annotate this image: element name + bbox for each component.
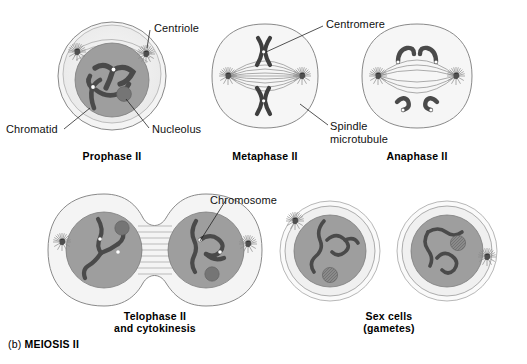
panel-sex-cells xyxy=(280,201,497,301)
nucleus xyxy=(411,215,483,287)
label-spindle-line-1: Spindle xyxy=(330,120,367,132)
panel-prophase-2 xyxy=(58,22,166,130)
meiosis-ii-figure: Centriole Centromere Chromatid Nucleolus… xyxy=(0,0,527,364)
centromere-dot xyxy=(262,99,265,102)
caption-sex-cells-line-2: (gametes) xyxy=(363,322,414,334)
centromere-dot xyxy=(98,237,102,241)
label-nucleolus: Nucleolus xyxy=(152,123,201,136)
nucleolus xyxy=(322,267,337,282)
label-chromatid: Chromatid xyxy=(6,123,58,136)
figure-caption: (b) MEIOSIS II xyxy=(8,338,79,350)
centromere-dot xyxy=(91,85,95,89)
label-centromere: Centromere xyxy=(326,18,385,31)
centromere-dot xyxy=(396,60,399,63)
label-spindle-microtubule: Spindlemicrotubule xyxy=(330,120,388,145)
centromere-dot xyxy=(116,250,120,254)
caption-anaphase-2: Anaphase II xyxy=(367,150,467,162)
centromere-dot xyxy=(112,68,116,72)
centromere-dot xyxy=(434,60,437,63)
label-chromosome: Chromosome xyxy=(210,194,277,207)
caption-sex-cells-line-1: Sex cells xyxy=(366,310,413,322)
nucleolus xyxy=(450,235,465,250)
centromere-dot xyxy=(218,250,222,254)
caption-telophase-2: Telophase IIand cytokinesis xyxy=(105,310,205,334)
panel-telophase-2 xyxy=(48,194,262,306)
caption-sex-cells: Sex cells(gametes) xyxy=(339,310,439,334)
centromere-dot xyxy=(401,108,404,111)
figure-caption-title: MEIOSIS II xyxy=(25,338,80,350)
panel-anaphase-2 xyxy=(362,24,472,128)
panel-metaphase-2 xyxy=(212,24,328,128)
centromere-dot xyxy=(429,108,432,111)
gamete-cell xyxy=(280,201,380,301)
label-centriole: Centriole xyxy=(154,22,199,35)
label-spindle-line-2: microtubule xyxy=(330,133,388,145)
figure-caption-prefix: (b) xyxy=(8,338,25,350)
nucleolus xyxy=(115,221,129,235)
gamete-cell xyxy=(397,201,497,301)
caption-metaphase-2: Metaphase II xyxy=(215,150,315,162)
caption-telophase-line-2: and cytokinesis xyxy=(114,322,196,334)
caption-prophase-2: Prophase II xyxy=(62,150,162,162)
caption-telophase-line-1: Telophase II xyxy=(124,310,186,322)
nucleolus xyxy=(205,267,219,281)
diagram-canvas xyxy=(0,0,527,364)
nucleolus xyxy=(117,87,132,102)
centromere-dot xyxy=(262,50,265,53)
